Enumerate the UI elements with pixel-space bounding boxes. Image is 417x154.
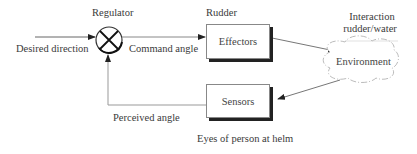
effectors-box: Effectors	[206, 24, 270, 59]
effectors-label: Effectors	[219, 36, 257, 47]
regulator-label: Regulator	[92, 7, 133, 19]
interaction-label-line2: rudder/water	[336, 23, 404, 35]
command-angle-label: Command angle	[129, 43, 198, 55]
sensors-label: Sensors	[222, 96, 255, 107]
feedback-arrow	[108, 55, 206, 105]
rudder-label: Rudder	[206, 7, 237, 19]
desired-direction-label: Desired direction	[16, 43, 89, 55]
eyes-of-person-label: Eyes of person at helm	[197, 133, 293, 145]
regulator-summing-junction-icon	[96, 27, 122, 53]
sense-arrow	[278, 80, 340, 99]
effect-arrow	[272, 38, 335, 51]
perceived-angle-label: Perceived angle	[113, 112, 180, 124]
environment-label: Environment	[336, 56, 391, 67]
sensors-box: Sensors	[206, 84, 270, 118]
interaction-label-line1: Interaction	[340, 11, 404, 23]
